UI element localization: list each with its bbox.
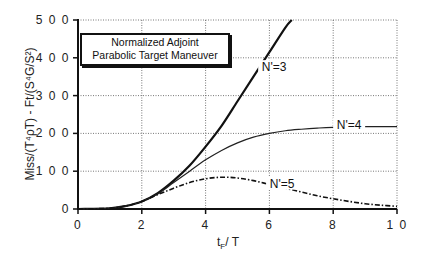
y-axis-label: Miss/(T⁴ρT) - Ft/(S⁴G/S²) (23, 47, 37, 180)
x-tick-label: 6 (265, 218, 273, 232)
curve-label: N'=3 (262, 60, 287, 74)
curve-labels: N'=3N'=4N'=5 (258, 60, 365, 190)
x-tick-label: 4 (202, 218, 210, 232)
y-tick-label: 3 0 0 (36, 89, 70, 103)
x-tick-label: 1 0 (386, 218, 407, 232)
y-tick-label: 0 (62, 202, 70, 216)
x-tick-label: 8 (329, 218, 337, 232)
y-tick-label: 5 0 0 (36, 13, 70, 27)
x-tick-label: 0 (74, 218, 82, 232)
chart-title-line2: Parabolic Target Maneuver (82, 49, 228, 62)
curve-4 (78, 127, 397, 209)
y-tick-label: 4 0 0 (36, 51, 70, 65)
x-axis-label: tF/ T (217, 235, 240, 251)
curve-5 (78, 177, 397, 209)
y-tick-label: 2 0 0 (36, 126, 70, 140)
x-tick-label: 2 (138, 218, 146, 232)
curve-label: N'=5 (270, 177, 295, 191)
chart-title-box: Normalized Adjoint Parabolic Target Mane… (80, 33, 230, 66)
chart-title-line1: Normalized Adjoint (82, 36, 228, 49)
curve-label: N'=4 (337, 118, 362, 132)
y-tick-label: 1 0 0 (36, 164, 70, 178)
